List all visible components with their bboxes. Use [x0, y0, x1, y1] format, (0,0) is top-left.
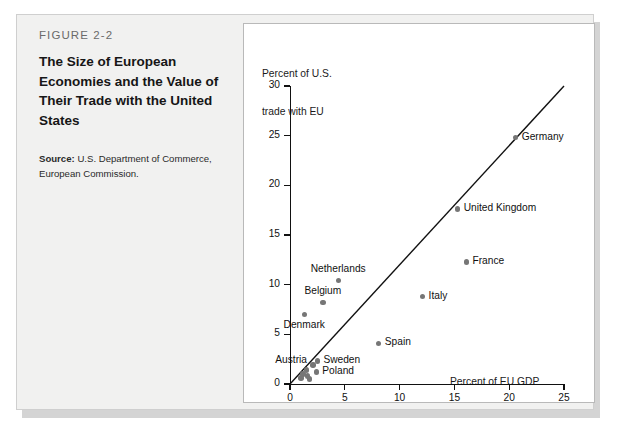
figure-card: FIGURE 2-2 The Size of European Economie… [16, 14, 594, 410]
x-tick-label: 5 [330, 392, 360, 403]
y-tick-mark [284, 135, 290, 136]
data-point [314, 369, 319, 374]
x-tick-mark [289, 385, 290, 390]
data-point [310, 362, 315, 367]
source-label: Source: [39, 153, 75, 164]
x-tick-label: 0 [275, 392, 305, 403]
x-tick-label: 15 [439, 392, 469, 403]
x-tick-mark [509, 385, 510, 390]
reference-line [244, 24, 596, 404]
chart-panel: Percent of U.S. trade with EU Percent of… [243, 23, 595, 403]
figure-source: Source: U.S. Department of Commerce, Eur… [39, 152, 229, 181]
y-tick-label: 15 [244, 228, 280, 239]
y-tick-label: 30 [244, 79, 280, 90]
x-tick-label: 10 [385, 392, 415, 403]
data-point-label: Denmark [284, 319, 325, 330]
data-point-label: United Kingdom [464, 202, 537, 213]
y-tick-label: 20 [244, 178, 280, 189]
data-point-label: Netherlands [311, 263, 366, 274]
y-tick-label: 25 [244, 129, 280, 140]
data-point-label: Spain [385, 336, 411, 347]
data-point-label: Belgium [304, 285, 341, 296]
y-tick-mark [284, 234, 290, 235]
x-tick-label: 25 [549, 392, 579, 403]
y-tick-label: 5 [244, 327, 280, 338]
figure-title: The Size of European Economies and the V… [39, 52, 229, 130]
data-point [302, 312, 307, 317]
x-tick-mark [563, 385, 564, 390]
x-tick-mark [399, 385, 400, 390]
data-point-label: France [472, 255, 504, 266]
data-point-label: Germany [522, 131, 564, 142]
y-tick-mark [284, 284, 290, 285]
x-tick-label: 20 [494, 392, 524, 403]
data-point-label: Poland [322, 365, 354, 376]
data-point [320, 300, 325, 305]
data-point-label: Italy [429, 290, 448, 301]
y-tick-mark [284, 334, 290, 335]
scatter-plot: Percent of U.S. trade with EU Percent of… [244, 24, 596, 404]
data-point-label: Sweden [323, 354, 360, 365]
data-point [298, 375, 303, 380]
y-tick-mark [284, 85, 290, 86]
data-point [464, 259, 469, 264]
y-tick-mark [284, 185, 290, 186]
y-tick-label: 0 [244, 377, 280, 388]
x-tick-mark [344, 385, 345, 390]
data-point-label: Austria [275, 354, 307, 365]
figure-page: FIGURE 2-2 The Size of European Economie… [0, 0, 620, 436]
y-tick-label: 10 [244, 278, 280, 289]
figure-caption-column: FIGURE 2-2 The Size of European Economie… [39, 29, 229, 181]
figure-number: FIGURE 2-2 [39, 29, 229, 41]
x-tick-mark [454, 385, 455, 390]
